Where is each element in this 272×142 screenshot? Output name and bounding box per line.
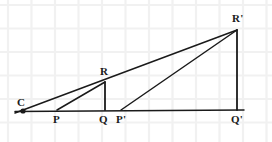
point-label-p-prime: P' [116, 114, 126, 125]
point-label-q-prime: Q' [231, 114, 243, 125]
geometry-figure: C P Q R P' Q' R' [0, 0, 272, 142]
point-label-q: Q [99, 114, 108, 125]
point-label-p: P [53, 114, 60, 125]
point-label-layer: C P Q R P' Q' R' [0, 0, 272, 142]
point-label-r-prime: R' [232, 13, 243, 24]
point-label-c: C [17, 97, 25, 108]
point-label-r: R [100, 66, 108, 77]
